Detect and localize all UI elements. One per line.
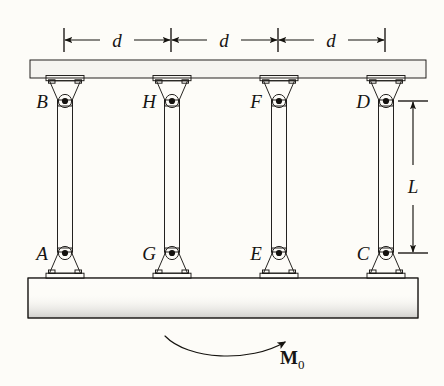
dimension-d2: d: [172, 30, 277, 51]
joint-label-A: A: [34, 243, 48, 264]
figure-canvas: d d d: [0, 0, 444, 386]
dimension-label-d2: d: [219, 30, 229, 51]
pin-joint-D: [367, 76, 405, 108]
pin-joint-A: [46, 246, 84, 278]
joint-labels-bottom: A G E C: [34, 243, 369, 264]
dimension-d1: d: [65, 30, 170, 51]
applied-moment-arrow: [165, 336, 285, 356]
vertical-dimension-L: L: [398, 101, 428, 253]
applied-moment-label: M 0: [280, 347, 305, 372]
joint-label-H: H: [141, 91, 157, 112]
top-pin-connections: [46, 76, 405, 108]
moment-symbol: M: [280, 347, 298, 368]
joint-label-G: G: [142, 243, 156, 264]
pin-joint-B: [46, 76, 84, 108]
pin-joint-H: [153, 76, 191, 108]
pin-joint-E: [260, 246, 298, 278]
joint-labels-top: B H F D: [36, 91, 370, 112]
column-AB: [58, 100, 73, 252]
bottom-pin-connections: [46, 246, 405, 278]
horizontal-dimension-group: d d d: [64, 28, 385, 52]
pin-joint-F: [260, 76, 298, 108]
column-GH: [165, 100, 180, 252]
columns-group: [58, 100, 394, 252]
joint-label-F: F: [249, 91, 262, 112]
dimension-label-L: L: [407, 176, 419, 197]
dimension-label-d3: d: [326, 30, 336, 51]
column-CD: [379, 100, 394, 252]
column-EF: [272, 100, 287, 252]
moment-subscript: 0: [298, 357, 305, 372]
dimension-d3: d: [279, 30, 384, 51]
joint-label-E: E: [249, 243, 262, 264]
pin-joint-G: [153, 246, 191, 278]
joint-label-B: B: [36, 91, 48, 112]
joint-label-D: D: [355, 91, 370, 112]
dimension-label-d1: d: [112, 30, 122, 51]
engineering-figure: d d d: [0, 0, 444, 386]
bottom-rigid-slab: [28, 278, 418, 318]
pin-joint-C: [367, 246, 405, 278]
joint-label-C: C: [357, 243, 370, 264]
